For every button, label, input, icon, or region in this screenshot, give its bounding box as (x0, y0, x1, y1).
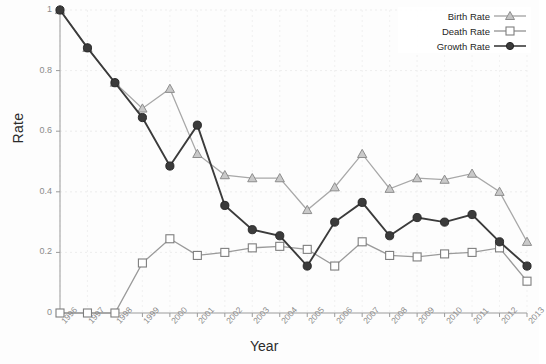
data-point (220, 171, 229, 179)
x-axis-title: Year (250, 338, 278, 354)
data-point (56, 6, 64, 14)
data-point (193, 149, 202, 157)
data-point (440, 218, 448, 226)
data-point (193, 121, 201, 129)
chart-legend: Birth Rate Death Rate Growth Rate (398, 7, 531, 53)
y-tick-label: 0.4 (20, 186, 52, 196)
data-point (495, 238, 503, 246)
y-tick-label: 0.6 (20, 125, 52, 135)
y-tick-label: 1 (20, 4, 52, 14)
y-tick-label: 0.2 (20, 246, 52, 256)
data-point (495, 187, 504, 195)
data-point (441, 250, 449, 258)
data-point (358, 198, 366, 206)
data-point (138, 113, 146, 121)
data-point (248, 244, 256, 252)
data-point (331, 262, 339, 270)
data-point (166, 162, 174, 170)
legend-label-death-rate: Death Rate (442, 26, 490, 37)
legend-item-birth-rate: Birth Rate (448, 9, 527, 23)
data-point (248, 226, 256, 234)
data-point (413, 253, 421, 261)
data-point (358, 238, 366, 246)
data-point (83, 44, 91, 52)
data-point (467, 169, 476, 177)
data-point (468, 248, 476, 256)
data-point (413, 213, 421, 221)
grid-lines (60, 10, 527, 313)
data-point (138, 259, 146, 267)
legend-item-death-rate: Death Rate (442, 24, 527, 38)
legend-label-birth-rate: Birth Rate (448, 11, 490, 22)
data-point (331, 218, 339, 226)
data-point (303, 262, 311, 270)
data-point (111, 79, 119, 87)
data-point (276, 242, 284, 250)
data-point (468, 210, 476, 218)
data-point (221, 201, 229, 209)
data-point (166, 235, 174, 243)
legend-label-growth-rate: Growth Rate (437, 41, 490, 52)
data-point (386, 251, 394, 259)
y-tick-label: 0 (20, 307, 52, 317)
data-point (193, 251, 201, 259)
legend-marker-triangle-icon (493, 10, 527, 22)
legend-marker-circle-icon (493, 40, 527, 52)
chart-axes (56, 10, 527, 317)
data-point (386, 232, 394, 240)
data-point (276, 232, 284, 240)
data-point (413, 174, 422, 182)
legend-marker-square-icon (493, 25, 527, 37)
data-point (303, 245, 311, 253)
data-point (523, 277, 531, 285)
data-point (523, 262, 531, 270)
data-point (522, 237, 531, 245)
y-tick-label: 0.8 (20, 65, 52, 75)
data-point (165, 84, 174, 92)
legend-item-growth-rate: Growth Rate (437, 39, 527, 53)
data-point (358, 149, 367, 157)
data-point (221, 248, 229, 256)
